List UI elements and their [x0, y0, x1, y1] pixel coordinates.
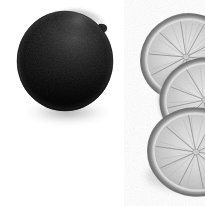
photo-canvas: Whole dark citrus fruit with three slice…: [0, 0, 205, 206]
slice-group: [126, 0, 205, 206]
whole-fruit-group: [17, 9, 114, 125]
citrus-photograph: [0, 0, 205, 206]
